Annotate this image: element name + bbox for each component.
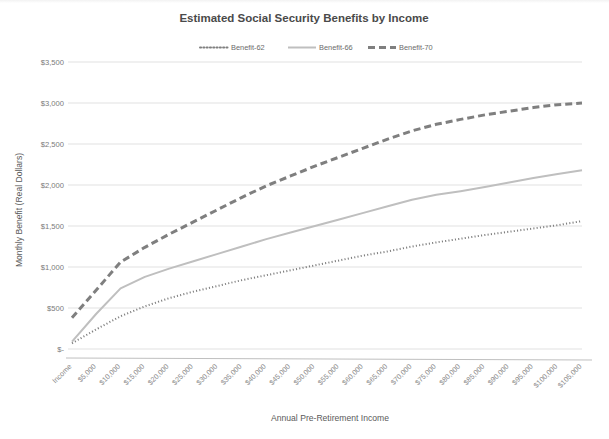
x-axis-tick-label: $75,000 [413,362,438,387]
x-axis-tick-label: $45,000 [267,362,292,387]
x-axis-title: Annual Pre-Retirement Income [271,413,389,423]
x-axis-tick-label: $50,000 [292,362,317,387]
x-axis-tick-label: $30,000 [194,362,219,387]
chart-title: Estimated Social Security Benefits by In… [179,12,428,24]
x-axis-line [66,358,592,360]
x-axis-tick-label: $60,000 [340,362,365,387]
x-axis-tick-label: $65,000 [364,362,389,387]
y-axis-tick-label: $500 [47,304,64,313]
series-line-benefit-66 [72,170,582,341]
y-axis-tick-label: $3,000 [41,99,64,108]
gridlines [68,62,582,349]
x-axis-tick-label: $40,000 [243,362,268,387]
y-axis-tick-label: $3,500 [41,58,64,67]
top-edge-divider [0,0,609,3]
y-axis-tick-labels: $-$500$1,000$1,500$2,000$2,500$3,000$3,5… [41,58,65,354]
y-axis-tick-label: $2,000 [41,181,64,190]
x-axis-tick-label: $70,000 [389,362,414,387]
x-axis-tick-label: $80,000 [437,362,462,387]
x-axis-tick-labels: Income$5,000$10,000$15,000$20,000$25,000… [50,362,583,390]
chart-container: Estimated Social Security Benefits by In… [0,0,609,439]
x-axis-tick-label: $105,000 [556,362,584,390]
x-axis-tick-label: $25,000 [170,362,195,387]
y-axis-title: Monthly Benefit (Real Dollars) [14,153,24,267]
y-axis-tick-label: $1,000 [41,263,64,272]
x-axis-tick-label: $55,000 [316,362,341,387]
legend-label-benefit-62: Benefit-62 [231,43,265,52]
x-axis-tick-label: $20,000 [146,362,171,387]
legend-label-benefit-70: Benefit-70 [399,43,433,52]
y-axis-tick-label: $2,500 [41,140,64,149]
x-axis-tick-label: Income [50,362,73,385]
chart-legend: Benefit-62Benefit-66Benefit-70 [200,43,433,52]
legend-label-benefit-66: Benefit-66 [319,43,353,52]
x-axis-tick-label: $90,000 [486,362,511,387]
x-axis-tick-label: $15,000 [122,362,147,387]
x-axis-tick-label: $35,000 [219,362,244,387]
x-axis-tick-label: $100,000 [532,362,560,390]
data-series [72,103,582,343]
y-axis-tick-label: $- [57,345,64,354]
social-security-benefits-line-chart: Estimated Social Security Benefits by In… [0,0,609,439]
x-axis-tick-label: $5,000 [76,362,98,384]
y-axis-tick-label: $1,500 [41,222,64,231]
series-line-benefit-62 [72,221,582,343]
x-axis-tick-label: $10,000 [97,362,122,387]
x-axis-tick-label: $85,000 [462,362,487,387]
series-line-benefit-70 [72,103,582,318]
